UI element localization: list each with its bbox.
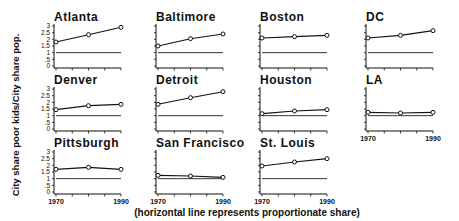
x-tick-label: 1970: [150, 198, 166, 205]
panel-houston: Houston: [258, 73, 329, 134]
data-point: [87, 165, 91, 169]
panel-san-francisco: San Francisco19701990: [150, 136, 244, 205]
data-point: [325, 33, 329, 37]
data-point: [189, 174, 193, 178]
panel-title: LA: [366, 73, 383, 87]
panel-st-louis: St. Louis19701990: [254, 136, 335, 205]
data-point: [431, 29, 435, 33]
y-tick-label: 3: [46, 148, 50, 155]
y-tick-label: 0: [46, 62, 50, 69]
data-point: [293, 160, 297, 164]
y-tick-label: 2: [46, 162, 50, 169]
panel-title: Houston: [260, 73, 312, 87]
data-point: [221, 90, 225, 94]
y-tick-label: 2.5: [41, 29, 50, 36]
panel-title: San Francisco: [156, 136, 245, 150]
panel-atlanta: Atlanta0.511.522.53: [41, 10, 123, 71]
panel-title: Atlanta: [54, 10, 98, 24]
y-tick-label: .5: [45, 182, 51, 189]
panels-group: Atlanta0.511.522.53BaltimoreBostonDCDenv…: [41, 10, 441, 205]
data-point: [87, 104, 91, 108]
data-point: [156, 102, 160, 106]
x-tick-label: 1990: [215, 198, 231, 205]
y-tick-label: 1.5: [41, 42, 50, 49]
data-point: [325, 157, 329, 161]
data-point: [54, 40, 58, 44]
y-tick-label: .5: [45, 119, 51, 126]
data-point: [399, 33, 403, 37]
y-tick-label: 2.5: [41, 92, 50, 99]
y-tick-label: 1.5: [41, 105, 50, 112]
data-point: [260, 112, 264, 116]
data-point: [399, 111, 403, 115]
data-point: [366, 36, 370, 40]
data-point: [156, 173, 160, 177]
data-point: [366, 110, 370, 114]
panel-la: LA19701990: [360, 73, 441, 142]
panel-title: St. Louis: [260, 136, 315, 150]
x-tick-label: 1970: [360, 135, 376, 142]
panel-dc: DC: [364, 10, 435, 71]
y-tick-label: 3: [46, 85, 50, 92]
data-point: [260, 36, 264, 40]
data-point: [119, 167, 123, 171]
data-point: [189, 96, 193, 100]
y-tick-label: 1: [46, 175, 50, 182]
y-tick-label: 2.5: [41, 155, 50, 162]
x-tick-label: 1970: [48, 198, 64, 205]
data-point: [119, 102, 123, 106]
data-point: [221, 32, 225, 36]
data-point: [293, 109, 297, 113]
y-tick-label: 1.5: [41, 168, 50, 175]
y-tick-label: 1: [46, 112, 50, 119]
footnote: (horizontal line represents proportionat…: [134, 207, 360, 218]
data-point: [54, 167, 58, 171]
panel-title: Baltimore: [156, 10, 216, 24]
x-tick-label: 1990: [425, 135, 441, 142]
panel-denver: Denver0.511.522.53: [41, 73, 123, 134]
panel-title: DC: [366, 10, 384, 24]
data-point: [87, 33, 91, 37]
data-point: [54, 108, 58, 112]
panel-baltimore: Baltimore: [154, 10, 225, 71]
panel-detroit: Detroit: [154, 73, 225, 134]
y-tick-label: 0: [46, 125, 50, 132]
data-point: [293, 35, 297, 39]
y-tick-label: 2: [46, 99, 50, 106]
x-tick-label: 1990: [113, 198, 129, 205]
panel-title: Denver: [54, 73, 98, 87]
y-tick-label: .5: [45, 56, 51, 63]
y-axis-label: City share poor kids/City share pop.: [10, 34, 21, 197]
y-tick-label: 3: [46, 22, 50, 29]
data-point: [325, 108, 329, 112]
panel-title: Boston: [260, 10, 304, 24]
panel-boston: Boston: [258, 10, 329, 71]
data-point: [189, 37, 193, 41]
data-point: [156, 44, 160, 48]
data-point: [260, 164, 264, 168]
panel-title: Detroit: [156, 73, 198, 87]
data-point: [221, 175, 225, 179]
x-tick-label: 1970: [254, 198, 270, 205]
panel-pittsburgh: Pittsburgh0.511.522.5319701990: [41, 136, 129, 205]
small-multiples-chart: City share poor kids/City share pop. (ho…: [0, 0, 459, 221]
x-tick-label: 1990: [319, 198, 335, 205]
data-point: [119, 25, 123, 29]
data-point: [431, 110, 435, 114]
y-tick-label: 2: [46, 36, 50, 43]
y-tick-label: 1: [46, 49, 50, 56]
y-tick-label: 0: [46, 188, 50, 195]
panel-title: Pittsburgh: [54, 136, 119, 150]
